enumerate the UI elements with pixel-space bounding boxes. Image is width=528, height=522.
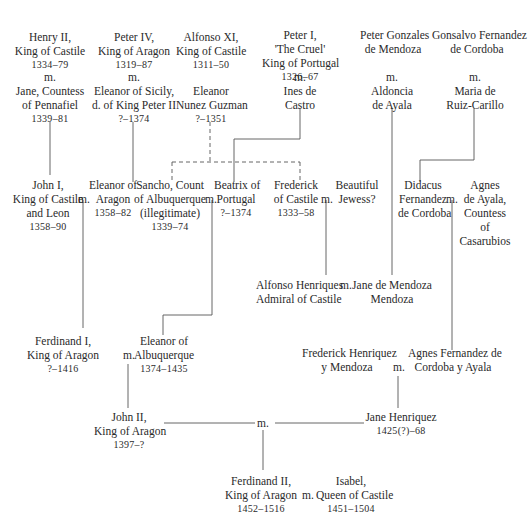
name-line: Peter IV, [96,30,172,44]
years: 1374–1435 [134,362,194,376]
person-sancho: Sancho, Count of Albuquerque (illegitima… [134,178,206,234]
name-line: King of Aragon [96,44,172,58]
person-frederick-castile: Frederick of Castile 1333–58 [272,178,320,220]
name-line: of Albuquerque [134,192,206,206]
person-maria-ruiz: m. Maria de Ruiz-Carillo [440,70,510,112]
name-line: Albuquerque [134,348,194,362]
name-line: Admiral of Castile [256,292,340,306]
name-line: Peter I, [262,28,338,42]
name-line: de Cordoba [432,42,522,56]
years: 1358–82 [88,206,138,220]
name-line: Cordoba y Ayala [408,360,498,374]
person-eleanor-sicily: m. Eleanor of Sicily, d. of King Peter I… [92,70,176,126]
marriage-label: m. [446,192,458,206]
person-peter-iv: Peter IV, King of Aragon 1319–87 [96,30,172,72]
name-line: Agnes [458,178,512,192]
name-line: 'The Cruel' [262,42,338,56]
person-ferdinand-i: Ferdinand I, King of Aragon ?–1416 [22,334,104,376]
name-line: Eleanor of Sicily, [92,84,176,98]
name-line: y Mendoza [302,360,392,374]
person-agnes-fernandez: Agnes Fernandez de Cordoba y Ayala [408,346,498,374]
name-line: Ruiz-Carillo [440,98,510,112]
person-jane-henriquez: Jane Henriquez 1425(?)–68 [364,410,438,438]
name-line: Isabel, [316,474,386,488]
person-john-ii: John II, King of Aragon 1397–? [94,410,164,452]
name-line: Beatrix of [214,178,258,192]
name-line: d. of King Peter II [92,98,176,112]
name-line: Eleanor of [134,334,194,348]
person-eleanor-aragon: Eleanor of Aragon 1358–82 [88,178,138,220]
name-line: Ferdinand II, [222,474,300,488]
name-line: Alfonso XI, [176,30,246,44]
years: ?–1374 [92,112,176,126]
name-line: Eleanor of [88,178,138,192]
marriage-label: m. [10,70,90,84]
name-line: and Leon [10,206,86,220]
marriage-label: m. [257,416,269,430]
name-line: of Castile [272,192,320,206]
name-line: Beautiful [334,178,380,192]
name-line: Jane Henriquez [364,410,438,424]
person-beautiful-jewess: Beautiful Jewess? [334,178,380,206]
name-line: Fernandez [398,192,448,206]
years: 1451–1504 [316,502,386,516]
marriage-label: m. [270,70,330,84]
years: ?–1351 [176,112,246,126]
name-line: Ferdinand I, [22,334,104,348]
name-line: Jane de Mendoza [352,278,432,292]
person-frederick-henriquez: Frederick Henriquez y Mendoza [302,346,392,374]
name-line: (illegitimate) [134,206,206,220]
name-line: King of Aragon [22,348,104,362]
marriage-label: m. [302,488,314,502]
person-jane-de-mendoza: Jane de Mendoza Mendoza [352,278,432,306]
name-line: Maria de [440,84,510,98]
person-alfonso-xi: Alfonso XI, King of Castile 1311–50 [176,30,246,72]
years: 1452–1516 [222,502,300,516]
marriage-label: m. [321,192,333,206]
years: 1358–90 [10,220,86,234]
name-line: King of Aragon [222,488,300,502]
name-line: Eleanor [176,84,246,98]
name-line: Jewess? [334,192,380,206]
name-line: of Pennafiel [10,98,90,112]
person-john-i: John I, King of Castile and Leon 1358–90 [10,178,86,234]
name-line: Agnes Fernandez de [408,346,498,360]
name-line: Queen of Castile [316,488,386,502]
name-line: King of Portugal [262,56,338,70]
name-line: de Cordoba [398,206,448,220]
name-line: of [458,220,512,234]
years: ?–1374 [214,206,258,220]
person-beatrix: Beatrix of Portugal ?–1374 [214,178,258,220]
years: 1425(?)–68 [364,424,438,438]
name-line: Henry II, [10,30,90,44]
person-didacus: Didacus Fernandez de Cordoba [398,178,448,220]
name-line: de Mendoza [360,42,426,56]
years: 1339–74 [134,220,206,234]
person-isabel: Isabel, Queen of Castile 1451–1504 [316,474,386,516]
name-line: Countess [458,206,512,220]
person-aldoncia: m. Aldoncia de Ayala [362,70,422,112]
name-line: Aragon [88,192,138,206]
name-line: Gonsalvo Fernandez [432,28,522,42]
years: 1333–58 [272,206,320,220]
name-line: Castro [270,98,330,112]
years: 1397–? [94,438,164,452]
name-line: Frederick Henriquez [302,346,392,360]
marriage-label: m. [340,278,352,292]
name-line: King of Aragon [94,424,164,438]
name-line: de Ayala [362,98,422,112]
name-line: John II, [94,410,164,424]
name-line: John I, [10,178,86,192]
person-jane-pennafiel: m. Jane, Countess of Pennafiel 1339–81 [10,70,90,126]
person-ferdinand-ii: Ferdinand II, King of Aragon 1452–1516 [222,474,300,516]
person-gonsalvo: Gonsalvo Fernandez de Cordoba [432,28,522,56]
name-line: Mendoza [352,292,432,306]
name-line: Aldoncia [362,84,422,98]
name-line: Frederick [272,178,320,192]
name-line: King of Castile [10,44,90,58]
person-alfonso-henriques: Alfonso Henriques Admiral of Castile [256,278,340,306]
person-henry-ii: Henry II, King of Castile 1334–79 [10,30,90,72]
name-line: de Ayala, [458,192,512,206]
name-line: Sancho, Count [134,178,206,192]
name-line: Jane, Countess [10,84,90,98]
